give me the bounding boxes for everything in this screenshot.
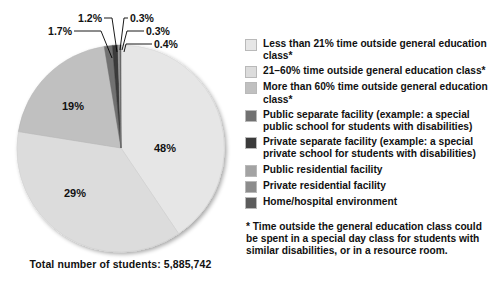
legend-label-public-separate-facility: Public separate facility (example: a spe… — [263, 109, 496, 133]
pie-callout-1-7: 1.7% — [48, 25, 73, 37]
pie-slice-more-than-60[interactable] — [18, 46, 121, 148]
legend-item-more-than-60[interactable]: More than 60% time outside general educa… — [245, 81, 502, 105]
pie-chart-region: 48% 29% 19% 1.7% 1.2% 0.3% 0.3% 0.4% Tot… — [0, 0, 245, 287]
pie-callout-0-4: 0.4% — [154, 38, 179, 50]
legend-swatch-less-than-21 — [245, 39, 257, 51]
legend-swatch-public-residential-facility — [245, 165, 257, 177]
legend-item-public-separate-facility[interactable]: Public separate facility (example: a spe… — [245, 109, 502, 133]
legend-label-21-60: 21–60% time outside general education cl… — [263, 65, 486, 77]
chart-page: 48% 29% 19% 1.7% 1.2% 0.3% 0.3% 0.4% Tot… — [0, 0, 502, 287]
total-students-caption: Total number of students: 5,885,742 — [0, 258, 241, 270]
legend-swatch-home-hospital-environment — [245, 197, 257, 209]
legend: Less than 21% time outside general educa… — [245, 38, 502, 258]
legend-swatch-private-residential-facility — [245, 181, 257, 193]
legend-item-21-60[interactable]: 21–60% time outside general education cl… — [245, 65, 502, 78]
legend-swatch-public-separate-facility — [245, 110, 257, 122]
legend-item-private-separate-facility[interactable]: Private separate facility (example: a sp… — [245, 136, 502, 160]
legend-item-less-than-21[interactable]: Less than 21% time outside general educa… — [245, 38, 502, 62]
legend-item-home-hospital-environment[interactable]: Home/hospital environment — [245, 196, 502, 209]
legend-swatch-more-than-60 — [245, 82, 257, 94]
legend-label-private-residential-facility: Private residential facility — [263, 180, 386, 192]
legend-label-home-hospital-environment: Home/hospital environment — [263, 196, 397, 208]
legend-label-public-residential-facility: Public residential facility — [263, 164, 382, 176]
pie-callout-labels: 1.7% 1.2% 0.3% 0.3% 0.4% — [48, 12, 179, 50]
legend-item-public-residential-facility[interactable]: Public residential facility — [245, 164, 502, 177]
legend-swatch-private-separate-facility — [245, 137, 257, 149]
legend-label-more-than-60: More than 60% time outside general educa… — [263, 81, 496, 105]
pie-label-29: 29% — [64, 187, 86, 199]
pie-slices-group — [17, 45, 224, 252]
pie-label-48: 48% — [154, 142, 176, 154]
pie-chart-svg: 48% 29% 19% 1.7% 1.2% 0.3% 0.3% 0.4% — [0, 0, 245, 260]
pie-label-19: 19% — [62, 100, 84, 112]
legend-label-private-separate-facility: Private separate facility (example: a sp… — [263, 136, 496, 160]
pie-callout-1-2: 1.2% — [78, 12, 103, 24]
footnote-text: * Time outside the general education cla… — [246, 221, 482, 258]
pie-callout-0-3-a: 0.3% — [130, 12, 155, 24]
legend-item-private-residential-facility[interactable]: Private residential facility — [245, 180, 502, 193]
legend-swatch-21-60 — [245, 66, 257, 78]
pie-callout-0-3-b: 0.3% — [146, 25, 171, 37]
legend-label-less-than-21: Less than 21% time outside general educa… — [263, 38, 496, 62]
